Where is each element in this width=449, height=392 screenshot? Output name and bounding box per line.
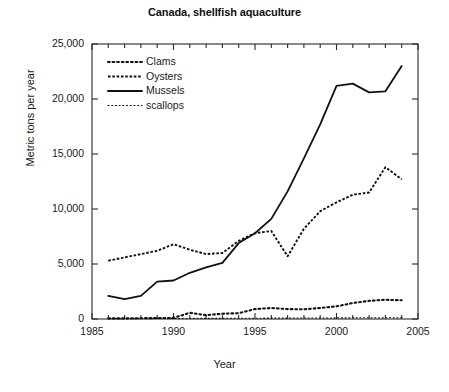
x-tick-label: 1985 — [69, 325, 115, 337]
legend-swatches — [108, 62, 142, 106]
y-tick-label: 20,000 — [32, 92, 84, 104]
legend-label-oysters: Oysters — [146, 70, 182, 82]
series-line-oysters — [108, 167, 401, 261]
y-tick-label: 0 — [32, 312, 84, 324]
x-tick-label: 1990 — [151, 325, 197, 337]
axes — [92, 44, 418, 319]
legend-label-clams: Clams — [146, 55, 176, 67]
chart-figure: Canada, shellfish aquaculture Metric ton… — [0, 0, 449, 392]
x-axis-label: Year — [0, 358, 449, 370]
y-tick-label: 5,000 — [32, 257, 84, 269]
x-tick-label: 2005 — [395, 325, 441, 337]
y-tick-label: 10,000 — [32, 202, 84, 214]
y-tick-label: 25,000 — [32, 37, 84, 49]
legend-label-mussels: Mussels — [146, 84, 185, 96]
y-tick-label: 15,000 — [32, 147, 84, 159]
legend-label-scallops: scallops — [146, 99, 184, 111]
plot-area — [0, 0, 449, 392]
x-tick-label: 2000 — [314, 325, 360, 337]
chart-title: Canada, shellfish aquaculture — [0, 6, 449, 18]
x-tick-label: 1995 — [232, 325, 278, 337]
